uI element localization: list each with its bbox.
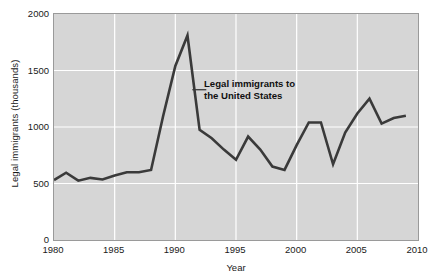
gridlines: [54, 14, 418, 240]
x-tick-label: 2005: [336, 244, 376, 255]
plot-area: [53, 13, 419, 241]
data-line-legal-immigrants: [54, 35, 406, 180]
y-axis-tick-labels: 0500100015002000: [0, 0, 49, 278]
x-tick-label: 2000: [276, 244, 316, 255]
data-series-layer: [54, 35, 406, 180]
chart-canvas: [54, 14, 418, 240]
y-tick-label: 1000: [3, 121, 49, 132]
x-tick-label: 1985: [94, 244, 134, 255]
y-tick-label: 2000: [3, 8, 49, 19]
x-tick-label: 1995: [215, 244, 255, 255]
x-tick-label: 2010: [397, 244, 432, 255]
x-tick-label: 1990: [154, 244, 194, 255]
x-axis-title: Year: [53, 262, 419, 273]
y-tick-label: 500: [3, 177, 49, 188]
series-annotation-line1: Legal immigrants to: [204, 78, 295, 89]
y-tick-label: 0: [3, 234, 49, 245]
series-annotation: Legal immigrants to the United States: [204, 78, 295, 101]
y-tick-label: 1500: [3, 64, 49, 75]
series-annotation-line2: the United States: [204, 90, 295, 102]
x-tick-label: 1980: [33, 244, 73, 255]
